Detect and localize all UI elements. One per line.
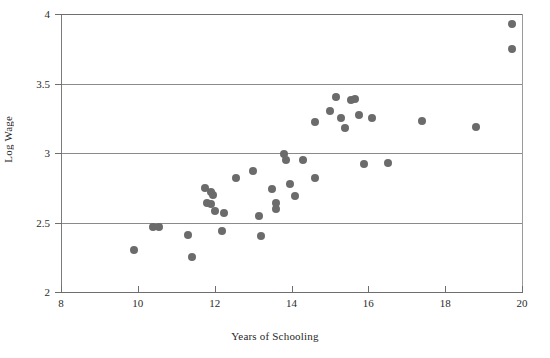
data-point [220, 209, 228, 217]
data-point [209, 191, 217, 199]
data-point [282, 156, 290, 164]
y-tick-label: 3 [8, 148, 50, 159]
data-point [211, 207, 219, 215]
data-point [326, 107, 334, 115]
gridline [61, 84, 522, 85]
y-tick-label: 4 [8, 9, 50, 20]
data-point [184, 231, 192, 239]
x-tick-label: 16 [348, 297, 388, 309]
data-point [508, 45, 516, 53]
data-point [337, 114, 345, 122]
data-point [311, 174, 319, 182]
data-point [255, 212, 263, 220]
data-point [286, 180, 294, 188]
x-tick-mark [215, 286, 216, 293]
data-point [130, 246, 138, 254]
plot-right-frame [522, 14, 523, 292]
data-point [332, 93, 340, 101]
data-point [218, 227, 226, 235]
x-tick-label: 18 [425, 297, 465, 309]
x-axis-title: Years of Schooling [0, 330, 550, 342]
data-point [508, 20, 516, 28]
x-tick-label: 10 [118, 297, 158, 309]
data-point [291, 192, 299, 200]
data-point [472, 123, 480, 131]
x-tick-mark [138, 286, 139, 293]
data-point [351, 95, 359, 103]
plot-area [61, 14, 522, 292]
gridline [61, 153, 522, 154]
data-point [232, 174, 240, 182]
x-tick-label: 20 [502, 297, 542, 309]
x-tick-mark [445, 286, 446, 293]
x-tick-mark [368, 286, 369, 293]
data-point [257, 232, 265, 240]
gridline [61, 223, 522, 224]
x-tick-label: 8 [41, 297, 81, 309]
data-point [299, 156, 307, 164]
y-tick-mark [55, 84, 62, 85]
y-tick-label: 3.5 [8, 79, 50, 90]
x-tick-label: 12 [195, 297, 235, 309]
x-tick-mark [292, 286, 293, 293]
data-point [341, 124, 349, 132]
data-point [418, 117, 426, 125]
data-point [155, 223, 163, 231]
data-point [355, 111, 363, 119]
scatter-plot-figure: Log Wage 22.533.54 8101214161820 Years o… [0, 0, 550, 358]
data-point [360, 160, 368, 168]
x-tick-mark [522, 286, 523, 293]
data-point [268, 185, 276, 193]
data-point [368, 114, 376, 122]
gridline [61, 14, 522, 15]
data-point [272, 205, 280, 213]
data-point [384, 159, 392, 167]
y-tick-mark [55, 223, 62, 224]
data-point [311, 118, 319, 126]
y-tick-mark [55, 153, 62, 154]
y-tick-label: 2.5 [8, 218, 50, 229]
data-point [249, 167, 257, 175]
data-point [188, 253, 196, 261]
x-tick-label: 14 [272, 297, 312, 309]
x-tick-mark [61, 286, 62, 293]
y-tick-mark [55, 14, 62, 15]
